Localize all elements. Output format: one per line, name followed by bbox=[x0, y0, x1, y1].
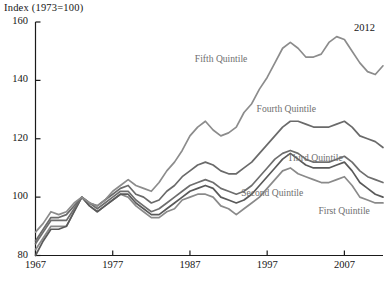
plot-area bbox=[0, 0, 387, 287]
series-label-fourth-quintile: Fourth Quintile bbox=[257, 103, 316, 114]
x-tick-label: 2007 bbox=[324, 259, 364, 270]
x-tick-label: 1997 bbox=[247, 259, 287, 270]
x-tick-marks bbox=[36, 251, 345, 256]
y-tick-marks bbox=[36, 22, 41, 256]
y-tick-label: 160 bbox=[2, 15, 28, 26]
y-tick-label: 120 bbox=[2, 132, 28, 143]
series-label-second-quintile: Second Quintile bbox=[241, 187, 303, 198]
x-tick-label: 1977 bbox=[93, 259, 133, 270]
series-label-third-quintile: Third Quintile bbox=[288, 152, 343, 163]
income-quintile-index-chart: Index (1973=100) 2012 80100120140160 196… bbox=[0, 0, 387, 287]
x-tick-label: 1987 bbox=[170, 259, 210, 270]
series-label-fifth-quintile: Fifth Quintile bbox=[195, 53, 248, 64]
y-tick-label: 140 bbox=[2, 73, 28, 84]
data-series-lines bbox=[36, 37, 384, 256]
y-tick-label: 100 bbox=[2, 190, 28, 201]
series-label-first-quintile: First Quintile bbox=[318, 205, 369, 216]
x-tick-label: 1967 bbox=[16, 259, 56, 270]
